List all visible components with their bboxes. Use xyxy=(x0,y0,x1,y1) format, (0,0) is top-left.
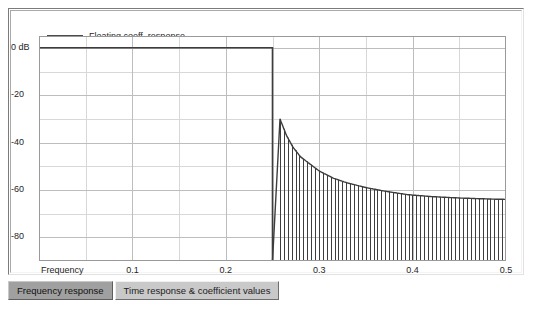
x-axis-title: Frequency xyxy=(41,265,84,275)
y-tick-label: -40 xyxy=(11,137,24,147)
x-tick-label: 0.3 xyxy=(289,265,349,275)
y-tick-label: -20 xyxy=(11,89,24,99)
tab-time-response-label: Time response & coefficient values xyxy=(124,285,271,296)
x-tick-label: 0.2 xyxy=(196,265,256,275)
tab-strip: Frequency response Time response & coeff… xyxy=(8,281,530,303)
y-tick-label: -60 xyxy=(11,184,24,194)
tab-time-response[interactable]: Time response & coefficient values xyxy=(115,281,280,300)
plot-panel-inner: Floating coeff. response 0 dB-20-40-60-8… xyxy=(10,10,522,273)
x-tick-label: 0.1 xyxy=(102,265,162,275)
tab-frequency-response[interactable]: Frequency response xyxy=(8,281,113,300)
x-tick-label: 0.5 xyxy=(476,265,536,275)
tab-frequency-response-label: Frequency response xyxy=(17,285,104,296)
y-tick-label: -80 xyxy=(11,231,24,241)
frequency-response-window: Floating coeff. response 0 dB-20-40-60-8… xyxy=(0,0,538,313)
frequency-response-chart xyxy=(39,36,506,261)
plot-area xyxy=(39,36,506,261)
x-tick-label: 0.4 xyxy=(383,265,443,275)
plot-panel: Floating coeff. response 0 dB-20-40-60-8… xyxy=(8,8,524,275)
y-tick-label: 0 dB xyxy=(11,42,30,52)
